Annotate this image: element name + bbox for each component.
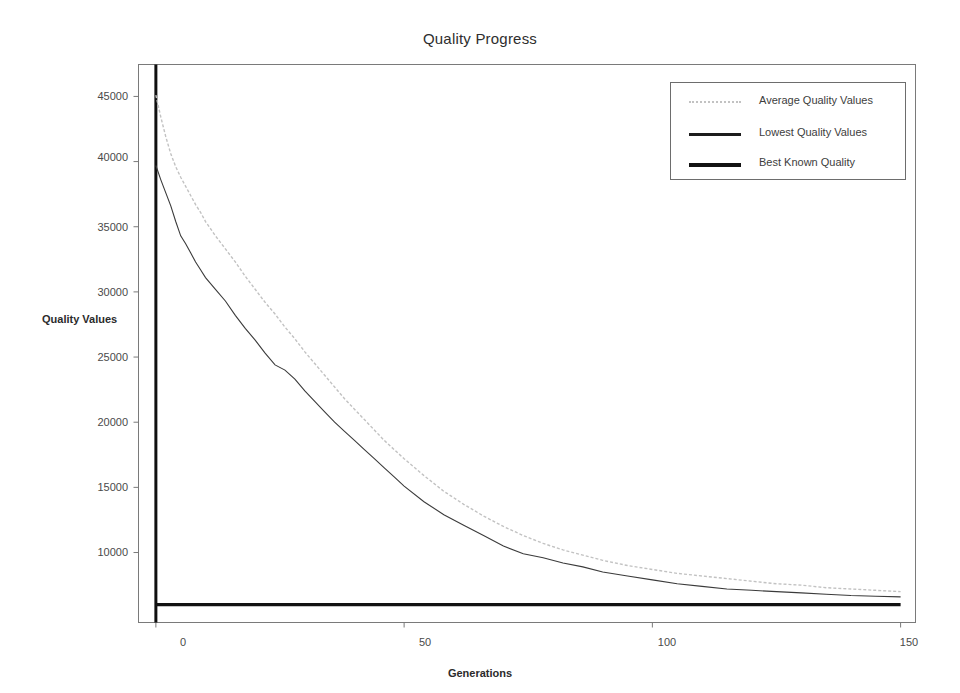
chart-title: Quality Progress xyxy=(0,30,960,47)
legend-label-best: Best Known Quality xyxy=(759,156,855,168)
y-tick-label: 40000 xyxy=(68,152,128,163)
legend-swatch-best-icon xyxy=(689,163,741,167)
legend-swatch-lowest-icon xyxy=(689,133,741,136)
y-tick-label: 20000 xyxy=(68,417,128,428)
y-tick-label: 10000 xyxy=(68,547,128,558)
y-tick-label: 25000 xyxy=(68,352,128,363)
legend-item-lowest: Lowest Quality Values xyxy=(671,121,907,147)
y-tick-label: 15000 xyxy=(68,482,128,493)
y-tick-label: 45000 xyxy=(68,91,128,102)
y-tick-label: 30000 xyxy=(68,287,128,298)
x-tick-label: 100 xyxy=(637,637,697,648)
x-axis-title: Generations xyxy=(0,667,960,679)
legend-label-lowest: Lowest Quality Values xyxy=(759,126,867,138)
x-tick-label: 150 xyxy=(879,637,939,648)
y-tick-marks xyxy=(134,96,139,552)
x-tick-marks xyxy=(156,623,901,628)
chart-figure: Quality Progress Quality Values Generati… xyxy=(0,0,960,693)
legend-swatch-average-icon xyxy=(689,101,741,103)
legend-item-best: Best Known Quality xyxy=(671,151,907,177)
y-tick-label: 35000 xyxy=(68,222,128,233)
legend-label-average: Average Quality Values xyxy=(759,94,873,106)
chart-legend: Average Quality Values Lowest Quality Va… xyxy=(670,82,906,180)
x-tick-label: 50 xyxy=(395,637,455,648)
y-axis-title: Quality Values xyxy=(42,313,117,325)
x-tick-label: 0 xyxy=(153,637,213,648)
legend-item-average: Average Quality Values xyxy=(671,89,907,115)
series-lowest-quality xyxy=(156,165,901,596)
